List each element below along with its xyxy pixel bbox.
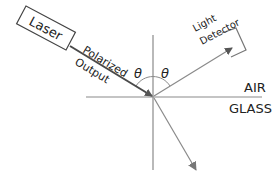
incident-angle-label: θ [134, 66, 142, 81]
diagram-canvas: Laser Polarized Output θ θ Light Detecto… [0, 0, 280, 180]
reflected-angle-label: θ [161, 66, 169, 81]
glass-label: GLASS [229, 101, 272, 116]
reflection-refraction-diagram: Laser Polarized Output θ θ Light Detecto… [0, 0, 280, 180]
air-label: AIR [244, 80, 266, 95]
laser-box: Laser [17, 6, 76, 50]
refracted-beam [154, 98, 196, 170]
